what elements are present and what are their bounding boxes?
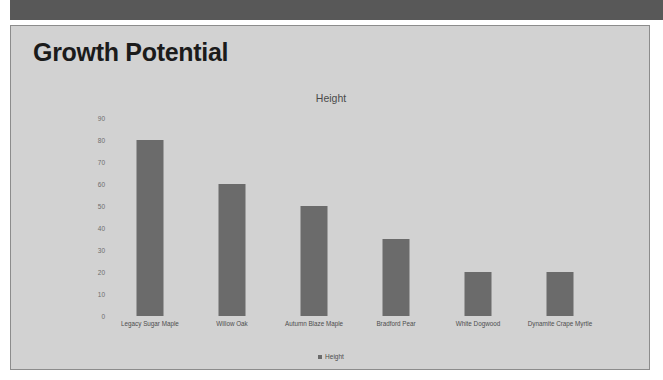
y-axis-tick: 40: [98, 225, 105, 232]
bar[interactable]: [137, 140, 164, 316]
chart-legend[interactable]: Height: [11, 353, 651, 360]
y-axis-tick: 80: [98, 137, 105, 144]
bar-slot: [109, 118, 191, 316]
bar-slot: [437, 118, 519, 316]
bar-slot: [273, 118, 355, 316]
y-axis-tick: 50: [98, 203, 105, 210]
page-title: Growth Potential: [33, 38, 228, 67]
bar[interactable]: [219, 184, 246, 316]
x-axis: Legacy Sugar MapleWillow OakAutumn Blaze…: [109, 320, 601, 352]
plot-area: [109, 118, 601, 316]
bar-slot: [355, 118, 437, 316]
bar[interactable]: [465, 272, 492, 316]
bar-slot: [191, 118, 273, 316]
bar-chart[interactable]: Height 9080706050403020100 Legacy Sugar …: [11, 86, 651, 371]
x-axis-label: White Dogwood: [437, 320, 519, 329]
y-axis-tick: 10: [98, 291, 105, 298]
bar[interactable]: [301, 206, 328, 316]
y-axis-tick: 90: [98, 115, 105, 122]
y-axis-tick: 30: [98, 247, 105, 254]
chart-title: Height: [11, 92, 651, 104]
y-axis-tick: 20: [98, 269, 105, 276]
legend-swatch-height: [318, 355, 322, 359]
bar[interactable]: [547, 272, 574, 316]
legend-label-height: Height: [325, 353, 344, 360]
y-axis-tick: 60: [98, 181, 105, 188]
y-axis-tick: 70: [98, 159, 105, 166]
y-axis-tick: 0: [101, 313, 105, 320]
y-axis: 9080706050403020100: [71, 118, 105, 316]
title-bar: [10, 0, 663, 20]
x-axis-label: Willow Oak: [191, 320, 273, 329]
x-axis-label: Dynamite Crape Myrtle: [519, 320, 601, 329]
x-axis-label: Autumn Blaze Maple: [273, 320, 355, 329]
presentation-slide[interactable]: Growth Potential Height 9080706050403020…: [10, 25, 650, 370]
x-axis-label: Legacy Sugar Maple: [109, 320, 191, 329]
x-axis-label: Bradford Pear: [355, 320, 437, 329]
bar[interactable]: [383, 239, 410, 316]
bar-slot: [519, 118, 601, 316]
